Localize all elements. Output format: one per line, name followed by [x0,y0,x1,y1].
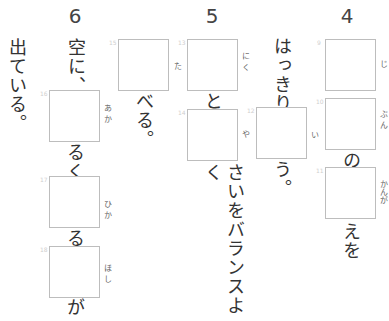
answer-box-14[interactable] [187,109,238,161]
ruby-hint: あか [101,104,111,126]
answer-box-11[interactable] [325,167,376,219]
sentence-fragment: はっきり [270,37,292,113]
answer-box-13[interactable] [187,39,238,91]
box-index: 12 [247,107,255,114]
ruby-hint: い [308,131,318,142]
box-index: 15 [109,39,117,46]
answer-box-15[interactable] [118,39,169,91]
box-index: 9 [317,39,321,46]
sentence-fragment: う。 [270,160,292,198]
ruby-hint: ひか [101,200,111,222]
ruby-hint: ほし [101,264,111,286]
answer-box-12[interactable] [256,107,307,159]
sentence-fragment: 空に、 [64,38,86,95]
sentence-fragment: 出ている。 [5,38,27,133]
box-index: 17 [40,176,48,183]
ruby-hint: じ [377,60,387,71]
box-index: 10 [316,98,324,105]
answer-box-17[interactable] [49,176,100,228]
box-index: 18 [40,246,48,253]
answer-box-10[interactable] [325,98,376,150]
question-number-5: 5 [197,4,227,28]
sentence-fragment: が [63,298,85,317]
sentence-fragment: さいをバランスよく [201,163,245,321]
box-index: 16 [40,90,48,97]
ruby-hint: ぶん [377,110,387,132]
ruby-hint: や [239,130,249,141]
answer-box-16[interactable] [49,90,100,142]
answer-box-18[interactable] [49,246,100,298]
ruby-hint: にく [239,52,249,74]
sentence-fragment: べる。 [132,92,154,149]
box-index: 14 [178,109,186,116]
box-index: 11 [316,167,324,174]
box-index: 13 [178,39,186,46]
ruby-hint: た [171,62,181,73]
sentence-fragment: えを [339,222,361,260]
question-number-4: 4 [332,4,362,28]
ruby-hint: かんが [377,180,387,204]
answer-box-9[interactable] [325,39,376,91]
question-number-6: 6 [60,4,90,28]
